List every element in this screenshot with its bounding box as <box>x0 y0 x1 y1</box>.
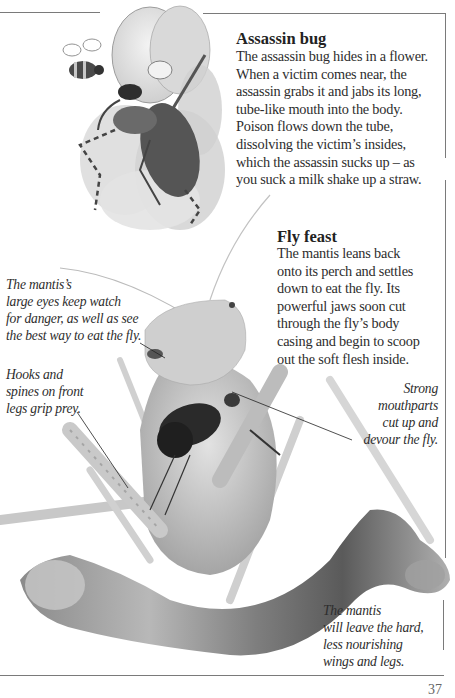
fly-feast-heading: Fly feast <box>277 228 337 246</box>
caption-mouthparts: Strong mouthparts cut up and devour the … <box>340 380 438 448</box>
bee-icon <box>63 39 104 79</box>
assassin-bug-heading: Assassin bug <box>236 30 326 48</box>
page-number: 37 <box>428 682 442 698</box>
caption-leave: The mantis will leave the hard, less nou… <box>323 602 448 670</box>
mantis-body <box>140 358 277 576</box>
caption-eyes: The mantis’s large eyes keep watch for d… <box>6 276 151 344</box>
caption-hooks: Hooks and spines on front legs grip prey… <box>6 366 106 417</box>
fly-feast-body: The mantis leans back onto its perch and… <box>277 245 447 368</box>
assassin-bug-body: The assassin bug hides in a flower. When… <box>236 48 446 189</box>
mantis-eye <box>147 349 163 359</box>
